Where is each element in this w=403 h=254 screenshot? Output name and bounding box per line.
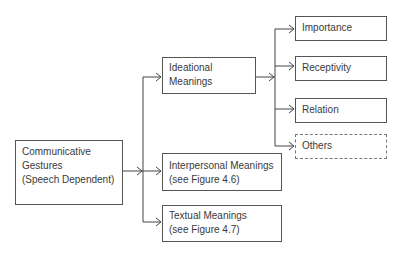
node-label: Meanings — [169, 75, 249, 89]
node-label: Gestures — [22, 159, 116, 173]
node-textual-meanings: Textual Meanings (see Figure 4.7) — [162, 205, 282, 242]
node-relation: Relation — [295, 98, 387, 123]
node-ideational-meanings: Ideational Meanings — [162, 57, 256, 94]
node-label: Ideational — [169, 61, 249, 75]
node-label: Relation — [302, 103, 380, 117]
node-label: (see Figure 4.7) — [169, 223, 275, 237]
node-label: Others — [302, 139, 380, 153]
node-label: (Speech Dependent) — [22, 173, 116, 187]
node-label: (see Figure 4.6) — [169, 173, 275, 187]
node-label: Communicative — [22, 145, 116, 159]
node-label: Receptivity — [302, 61, 380, 75]
node-label: Textual Meanings — [169, 209, 275, 223]
node-receptivity: Receptivity — [295, 56, 387, 81]
node-label: Interpersonal Meanings — [169, 159, 275, 173]
node-communicative-gestures: Communicative Gestures (Speech Dependent… — [15, 140, 123, 205]
node-interpersonal-meanings: Interpersonal Meanings (see Figure 4.6) — [162, 153, 282, 191]
node-label: Importance — [302, 21, 380, 35]
node-others: Others — [295, 134, 387, 159]
node-importance: Importance — [295, 16, 387, 41]
